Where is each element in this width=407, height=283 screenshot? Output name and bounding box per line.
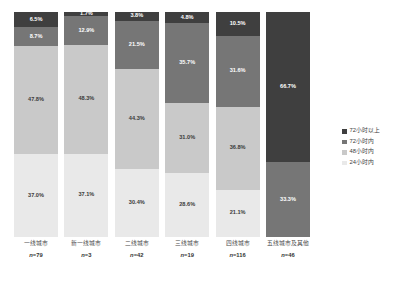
bar-segment[interactable]: 8.7% xyxy=(14,27,58,47)
legend-item-label: 48小时内 xyxy=(350,149,374,155)
stacked-bar-chart: 6.5%8.7%47.8%37.0%1.7%12.9%48.3%37.1%3.8… xyxy=(0,0,407,283)
bar-segment-label: 12.9% xyxy=(78,28,94,34)
plot-area: 6.5%8.7%47.8%37.0%1.7%12.9%48.3%37.1%3.8… xyxy=(14,12,310,237)
legend-item[interactable]: 72小时内 xyxy=(342,137,406,148)
bar-segment[interactable]: 31.6% xyxy=(216,36,260,107)
bar-segment[interactable]: 4.8% xyxy=(165,12,209,23)
x-axis-labels: 一线城市n=79新一线城市n=3二线城市n=42三线城市n=19四线城市n=11… xyxy=(14,240,310,276)
legend-item-label: 72小时以上 xyxy=(350,128,380,134)
bar-column[interactable]: 66.7%33.3% xyxy=(266,12,310,237)
bar-segment[interactable]: 36.8% xyxy=(216,107,260,190)
bar-segment-label: 36.8% xyxy=(230,145,246,151)
bar-segment-label: 6.5% xyxy=(30,17,43,23)
bar-segment[interactable]: 12.9% xyxy=(64,16,108,45)
bar-segment[interactable]: 33.3% xyxy=(266,162,310,237)
legend-swatch-icon xyxy=(342,129,347,134)
bar-segment-label: 8.7% xyxy=(30,34,43,40)
bar-segment[interactable]: 35.7% xyxy=(165,23,209,103)
bar-segment[interactable]: 10.5% xyxy=(216,12,260,36)
bar-segment[interactable]: 30.4% xyxy=(115,169,159,237)
bar-segment[interactable]: 47.8% xyxy=(14,46,58,154)
legend-swatch-icon xyxy=(342,161,347,166)
bar-segment[interactable]: 31.0% xyxy=(165,103,209,173)
bar-segment-label: 21.1% xyxy=(230,210,246,216)
bar-segment-label: 31.0% xyxy=(179,135,195,141)
bar-segment[interactable]: 44.3% xyxy=(115,69,159,169)
bar-segment-label: 3.8% xyxy=(130,13,143,19)
legend-item-label: 24小时内 xyxy=(350,160,374,166)
bar-segment[interactable]: 21.5% xyxy=(115,21,159,69)
legend-item[interactable]: 48小时内 xyxy=(342,147,406,158)
bar-column[interactable]: 3.8%21.5%44.3%30.4% xyxy=(115,12,159,237)
bar-segment-label: 28.6% xyxy=(179,202,195,208)
bar-segment-label: 4.8% xyxy=(181,15,194,21)
bar-segment-label: 37.0% xyxy=(28,193,44,199)
bar-segment[interactable]: 37.0% xyxy=(14,154,58,237)
legend-swatch-icon xyxy=(342,140,347,145)
x-axis-sample-size: n=46 xyxy=(252,252,324,258)
bar-segment[interactable]: 48.3% xyxy=(64,45,108,154)
bar-segment-label: 31.6% xyxy=(230,68,246,74)
bar-segment-label: 66.7% xyxy=(280,84,296,90)
bar-segment[interactable]: 28.6% xyxy=(165,173,209,237)
legend-item[interactable]: 24小时内 xyxy=(342,158,406,169)
bar-segment-label: 35.7% xyxy=(179,60,195,66)
x-axis-category-label: 五线城市及其他 xyxy=(252,240,324,246)
bar-segment[interactable]: 66.7% xyxy=(266,12,310,162)
legend-swatch-icon xyxy=(342,150,347,155)
bar-column[interactable]: 6.5%8.7%47.8%37.0% xyxy=(14,12,58,237)
x-axis-category: 五线城市及其他n=46 xyxy=(252,240,324,258)
bar-segment-label: 21.5% xyxy=(129,42,145,48)
legend-item-label: 72小时内 xyxy=(350,139,374,145)
bar-column[interactable]: 4.8%35.7%31.0%28.6% xyxy=(165,12,209,237)
chart-legend: 72小时以上72小时内48小时内24小时内 xyxy=(342,126,406,168)
bar-segment-label: 10.5% xyxy=(230,21,246,27)
bar-segment-label: 48.3% xyxy=(78,96,94,102)
bar-segment-label: 30.4% xyxy=(129,200,145,206)
bar-segment-label: 33.3% xyxy=(280,197,296,203)
bar-segment-label: 47.8% xyxy=(28,97,44,103)
bar-column[interactable]: 10.5%31.6%36.8%21.1% xyxy=(216,12,260,237)
bar-segment[interactable]: 21.1% xyxy=(216,190,260,237)
bar-segment-label: 37.1% xyxy=(78,192,94,198)
bar-segment[interactable]: 3.8% xyxy=(115,12,159,21)
bar-column[interactable]: 1.7%12.9%48.3%37.1% xyxy=(64,12,108,237)
bar-segment-label: 44.3% xyxy=(129,116,145,122)
bar-segment[interactable]: 37.1% xyxy=(64,154,108,237)
legend-item[interactable]: 72小时以上 xyxy=(342,126,406,137)
bar-segment[interactable]: 6.5% xyxy=(14,12,58,27)
